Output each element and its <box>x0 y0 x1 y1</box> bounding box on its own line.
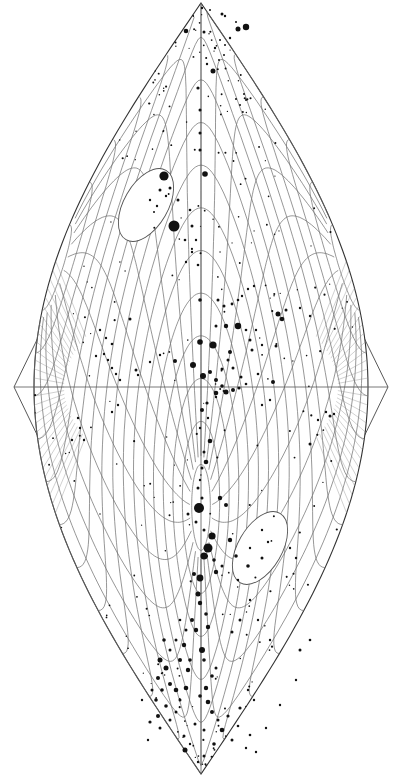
star-marker <box>205 401 208 404</box>
star-marker <box>215 667 218 670</box>
star-marker <box>261 344 263 346</box>
star-marker <box>195 239 197 241</box>
star-marker <box>168 682 172 686</box>
star-marker <box>255 329 257 331</box>
faint-star <box>195 30 196 31</box>
faint-star <box>245 178 247 180</box>
faint-star <box>172 501 174 503</box>
star-marker <box>169 719 172 722</box>
faint-star <box>170 144 172 146</box>
faint-star <box>217 276 219 278</box>
faint-star <box>225 735 227 737</box>
faint-star <box>228 572 230 574</box>
star-marker <box>117 404 119 406</box>
star-marker <box>195 521 198 524</box>
star-marker <box>159 727 162 730</box>
faint-star <box>143 485 145 487</box>
star-marker <box>214 391 219 396</box>
star-marker <box>111 411 113 413</box>
faint-star <box>170 502 171 503</box>
star-marker <box>241 295 243 297</box>
star-marker <box>210 674 214 678</box>
faint-star <box>273 295 275 297</box>
star-marker <box>234 554 238 558</box>
faint-star <box>213 50 214 51</box>
star-marker <box>247 689 249 691</box>
star-marker <box>261 529 263 531</box>
faint-star <box>322 429 324 431</box>
star-marker <box>257 373 260 376</box>
star-marker <box>299 307 301 309</box>
faint-star <box>165 86 167 88</box>
faint-star <box>149 103 151 105</box>
star-marker <box>202 171 208 177</box>
star-marker <box>243 24 249 30</box>
faint-star <box>289 585 290 586</box>
star-marker <box>185 629 188 632</box>
star-marker <box>236 27 241 32</box>
star-marker <box>184 239 187 242</box>
faint-star <box>109 604 111 606</box>
star-marker <box>218 496 222 500</box>
faint-star <box>171 275 173 277</box>
faint-star <box>212 219 213 220</box>
faint-star <box>342 307 343 308</box>
faint-star <box>126 636 127 637</box>
star-marker <box>208 439 213 444</box>
faint-star <box>269 649 271 651</box>
star-marker <box>200 408 204 412</box>
star-marker <box>249 547 251 549</box>
star-marker <box>200 373 206 379</box>
star-marker <box>224 390 229 395</box>
faint-star <box>275 343 277 345</box>
star-marker <box>184 686 189 691</box>
faint-star <box>169 514 171 516</box>
faint-star <box>271 310 273 312</box>
star-marker <box>103 353 105 355</box>
faint-star <box>258 146 260 148</box>
star-marker <box>231 739 234 742</box>
star-marker <box>295 679 297 681</box>
faint-star <box>297 289 298 290</box>
faint-star <box>307 584 309 586</box>
faint-star <box>179 698 181 700</box>
faint-star <box>209 31 211 33</box>
faint-star <box>352 326 353 327</box>
faint-star <box>245 706 246 707</box>
faint-star <box>211 39 213 41</box>
star-marker <box>317 419 319 421</box>
faint-star <box>182 737 183 738</box>
star-marker <box>164 666 169 671</box>
star-marker <box>267 541 269 543</box>
star-marker <box>115 373 117 375</box>
faint-star <box>153 114 154 115</box>
faint-star <box>154 79 156 81</box>
faint-star <box>157 663 159 665</box>
faint-star <box>268 195 270 197</box>
faint-star <box>316 434 318 436</box>
faint-star <box>256 445 258 447</box>
star-marker <box>169 221 180 232</box>
faint-star <box>198 755 200 757</box>
faint-star <box>289 430 291 432</box>
faint-star <box>196 433 198 435</box>
faint-star <box>208 96 210 98</box>
star-marker <box>204 612 208 616</box>
faint-star <box>163 88 164 89</box>
star-marker <box>164 704 168 708</box>
faint-star <box>179 485 181 487</box>
faint-star <box>265 285 267 287</box>
faint-star <box>197 205 199 207</box>
star-marker <box>245 329 248 332</box>
star-marker <box>223 54 225 56</box>
faint-star <box>52 437 54 439</box>
faint-star <box>248 686 250 688</box>
star-marker <box>169 187 172 190</box>
faint-star <box>251 242 252 243</box>
faint-star <box>110 221 111 222</box>
faint-star <box>199 52 200 53</box>
faint-star <box>201 14 202 15</box>
star-marker <box>309 639 312 642</box>
faint-star <box>219 388 221 390</box>
faint-star <box>220 105 222 107</box>
